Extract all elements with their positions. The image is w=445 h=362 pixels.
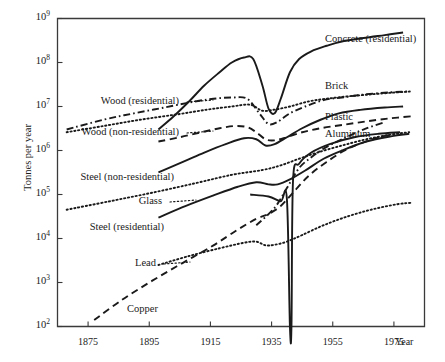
series-line-glass bbox=[158, 134, 409, 218]
series-label-plastic: Plastic bbox=[325, 111, 353, 122]
x-tick-label: 1895 bbox=[127, 336, 171, 347]
series-label-concrete-residential: Concrete (residential) bbox=[325, 33, 416, 44]
series-label-steel-residential: Steel (residential) bbox=[0, 221, 168, 232]
y-tick-label: 104 bbox=[8, 231, 50, 242]
series-label-glass: Glass bbox=[0, 195, 166, 206]
y-tick-label: 103 bbox=[8, 275, 50, 286]
annotation-leader-lines bbox=[164, 100, 213, 264]
x-tick-label: 1875 bbox=[66, 336, 110, 347]
x-tick-label: 1975 bbox=[372, 336, 416, 347]
series-label-steel-non-residential: Steel (non-residential) bbox=[0, 171, 178, 182]
series-label-wood-non-residential: Wood (non-residential) bbox=[0, 126, 183, 137]
series-label-wood-residential: Wood (residential) bbox=[0, 95, 183, 106]
chart-figure: Tonnes per year Year 1021031041051061071… bbox=[0, 0, 445, 362]
series-label-aluminum: Aluminum bbox=[325, 128, 371, 139]
series-label-copper: Copper bbox=[0, 303, 162, 314]
series-line-concrete-residential bbox=[158, 33, 403, 130]
series-label-brick: Brick bbox=[325, 80, 348, 91]
x-tick-label: 1915 bbox=[188, 336, 232, 347]
x-tick-label: 1955 bbox=[311, 336, 355, 347]
y-tick-label: 106 bbox=[8, 143, 50, 154]
y-tick-label: 102 bbox=[8, 319, 50, 330]
series-label-lead: Lead bbox=[0, 257, 160, 268]
y-tick-label: 108 bbox=[8, 55, 50, 66]
x-tick-label: 1935 bbox=[250, 336, 294, 347]
data-series bbox=[67, 33, 413, 344]
y-tick-label: 109 bbox=[8, 11, 50, 22]
